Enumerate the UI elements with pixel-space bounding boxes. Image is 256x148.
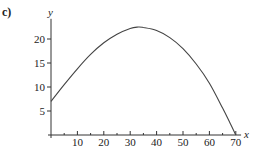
- x-tick-label: 60: [204, 136, 216, 148]
- ticks: 102030405060705101520: [34, 33, 242, 148]
- y-tick-label: 20: [34, 33, 46, 45]
- x-tick-label: 70: [230, 136, 242, 148]
- y-axis-label: y: [47, 6, 53, 18]
- data-curve: [51, 27, 236, 135]
- x-tick-label: 50: [178, 136, 190, 148]
- x-tick-label: 30: [125, 136, 137, 148]
- axes: [48, 19, 241, 138]
- y-tick-label: 15: [34, 57, 46, 69]
- chart: c) 102030405060705101520 x y: [0, 0, 256, 148]
- y-tick-label: 5: [40, 105, 46, 117]
- y-tick-label: 10: [34, 81, 46, 93]
- x-tick-label: 40: [151, 136, 163, 148]
- part-label: c): [2, 5, 11, 19]
- x-axis-label: x: [243, 128, 249, 140]
- x-tick-label: 20: [98, 136, 110, 148]
- x-tick-label: 10: [72, 136, 84, 148]
